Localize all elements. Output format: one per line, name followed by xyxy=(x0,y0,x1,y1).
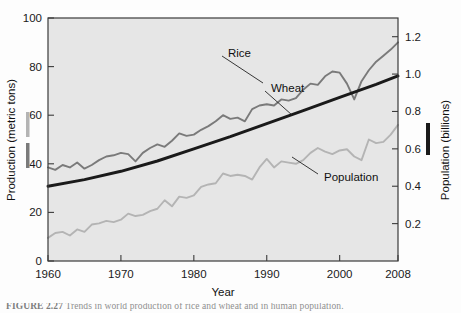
x-tick-label: 1960 xyxy=(35,268,61,280)
right-axis-title: Population (billions) xyxy=(439,100,451,201)
figure-caption: FIGURE 2.27 Trends in world production o… xyxy=(6,303,344,311)
series-label-wheat: Wheat xyxy=(271,82,305,94)
production-population-line-chart: 020406080100 0.20.40.60.81.01.2 19601970… xyxy=(0,0,461,303)
figure-caption-label: FIGURE 2.27 xyxy=(6,303,63,311)
series-label-population: Population xyxy=(324,171,378,183)
right-tick-label: 0.8 xyxy=(405,105,421,117)
x-tick-label: 1970 xyxy=(108,268,134,280)
left-tick-label: 100 xyxy=(23,12,42,24)
x-tick-label: 2000 xyxy=(327,268,353,280)
right-tick-label: 0.4 xyxy=(405,180,422,192)
rice-color-swatch xyxy=(26,143,30,168)
figure-container: 020406080100 0.20.40.60.81.01.2 19601970… xyxy=(0,0,461,313)
right-tick-label: 1.0 xyxy=(405,68,421,80)
x-tick-label: 1980 xyxy=(181,268,207,280)
figure-caption-text: Trends in world production of rice and w… xyxy=(65,303,343,311)
population-color-swatch xyxy=(426,123,430,155)
x-tick-label: 1990 xyxy=(254,268,280,280)
left-tick-label: 40 xyxy=(29,158,42,170)
left-tick-label: 0 xyxy=(36,255,42,267)
left-tick-label: 60 xyxy=(29,109,42,121)
left-axis-title: Production (metric tons) xyxy=(5,79,17,201)
right-tick-label: 0.6 xyxy=(405,143,421,155)
series-label-rice: Rice xyxy=(228,47,251,59)
right-tick-label: 0.2 xyxy=(405,218,421,230)
figure-caption-strip: FIGURE 2.27 Trends in world production o… xyxy=(0,303,461,313)
x-tick-label: 2008 xyxy=(385,268,411,280)
left-tick-label: 80 xyxy=(29,61,42,73)
wheat-color-swatch xyxy=(26,112,30,137)
right-tick-label: 1.2 xyxy=(405,31,421,43)
left-tick-label: 20 xyxy=(29,206,42,218)
x-axis-title: Year xyxy=(211,286,234,298)
